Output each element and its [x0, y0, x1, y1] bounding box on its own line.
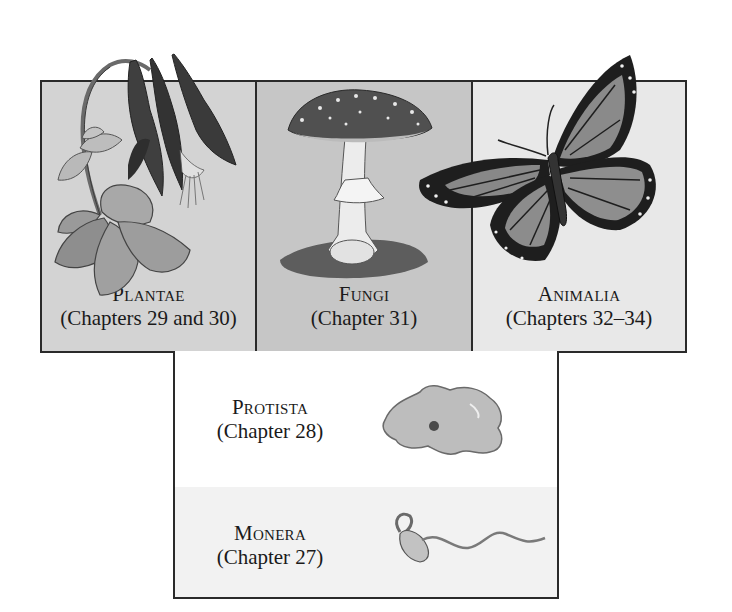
bacterium-icon [0, 0, 732, 612]
